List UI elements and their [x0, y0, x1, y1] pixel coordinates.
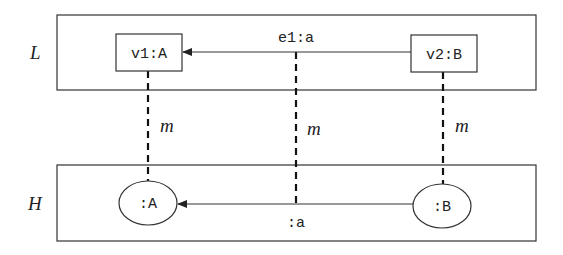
node-v2: v2:B [411, 35, 477, 72]
edge-ha-label: :a [287, 215, 305, 232]
node-v1: v1:A [116, 34, 182, 71]
node-v2-label: v2:B [426, 47, 462, 64]
mapping-label-m1: m [160, 115, 174, 136]
node-hA: :A [119, 181, 177, 225]
node-hB: :B [413, 184, 471, 228]
graph-L-label: L [29, 42, 41, 63]
mapping-label-m3: m [455, 115, 469, 136]
graph-H-label: H [27, 193, 43, 214]
node-hB-label: :B [433, 199, 451, 216]
edge-e1-label: e1:a [278, 30, 314, 47]
diagram-canvas: L H m m m e1:a v1:A v2:B :a :A :B [0, 0, 563, 255]
node-v1-label: v1:A [131, 46, 167, 63]
mapping-lines [148, 52, 443, 203]
mapping-label-m2: m [307, 118, 321, 139]
node-hA-label: :A [139, 196, 157, 213]
